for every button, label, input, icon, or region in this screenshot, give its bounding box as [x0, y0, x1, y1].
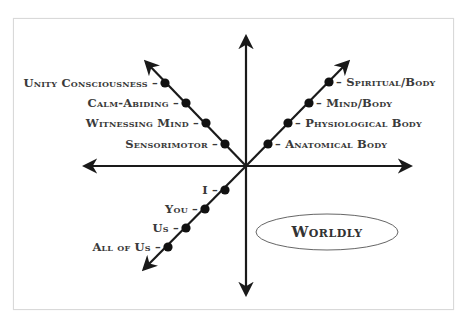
upper-left-item: Unity Consciousness –: [23, 76, 169, 90]
lower-left-item: I –: [202, 183, 229, 197]
dot-marker: [163, 242, 172, 251]
dot-marker: [200, 204, 209, 213]
dot-marker: [324, 77, 333, 86]
svg-text:– Mind/Body: – Mind/Body: [316, 96, 392, 110]
worldly-quadrant-label: Worldly: [256, 214, 398, 250]
svg-text:Calm-Abiding –: Calm-Abiding –: [88, 96, 179, 110]
dash: –: [316, 96, 322, 110]
label-physiological-body: Physiological Body: [305, 116, 422, 130]
label-witnessing-mind: Witnessing Mind: [85, 116, 189, 130]
dash: –: [212, 137, 218, 151]
upper-right-item: – Mind/Body: [304, 96, 392, 110]
svg-text:You –: You –: [164, 202, 198, 216]
lower-left-item: You –: [164, 202, 210, 216]
upper-right-item: – Anatomical Body: [263, 137, 387, 151]
dot-marker: [201, 118, 210, 127]
label-spiritual-body: Spiritual/Body: [346, 75, 435, 89]
svg-text:– Anatomical Body: – Anatomical Body: [275, 137, 387, 151]
dot-marker: [220, 139, 229, 148]
label-all-of-us: All of Us: [91, 240, 150, 254]
lower-left-item: All of Us –: [91, 240, 172, 254]
svg-text:Sensorimotor –: Sensorimotor –: [125, 137, 218, 151]
dash: –: [275, 137, 281, 151]
label-us: Us: [153, 221, 169, 235]
dot-marker: [181, 223, 190, 232]
dash: –: [193, 116, 199, 130]
worldly-text: Worldly: [290, 223, 362, 241]
svg-text:– Physiological Body: – Physiological Body: [295, 116, 422, 130]
quadrant-diagram: Unity Consciousness – Calm-Abiding – Wit…: [0, 0, 469, 325]
svg-text:I –: I –: [202, 183, 218, 197]
lower-left-item: Us –: [153, 221, 191, 235]
svg-text:Us –: Us –: [153, 221, 179, 235]
dot-marker: [220, 185, 229, 194]
label-calm-abiding: Calm-Abiding: [88, 96, 169, 110]
dash: –: [155, 240, 161, 254]
upper-left-item: Sensorimotor –: [125, 137, 229, 151]
dot-marker: [283, 118, 292, 127]
dash: –: [212, 183, 218, 197]
upper-right-item: – Spiritual/Body: [324, 75, 435, 89]
dash: –: [173, 96, 179, 110]
svg-text:– Spiritual/Body: – Spiritual/Body: [336, 75, 436, 89]
upper-right-item: – Physiological Body: [283, 116, 422, 130]
upper-left-item: Calm-Abiding –: [88, 96, 191, 110]
label-unity-consciousness: Unity Consciousness: [23, 76, 147, 90]
label-you: You: [164, 202, 188, 216]
dot-marker: [304, 98, 313, 107]
dot-marker: [181, 98, 190, 107]
label-i: I: [202, 183, 208, 197]
dash: –: [173, 221, 179, 235]
dot-marker: [160, 78, 169, 87]
label-sensorimotor: Sensorimotor: [125, 137, 208, 151]
svg-text:Witnessing Mind –: Witnessing Mind –: [85, 116, 199, 130]
label-mind-body: Mind/Body: [326, 96, 392, 110]
dash: –: [295, 116, 301, 130]
dash: –: [192, 202, 198, 216]
label-anatomical-body: Anatomical Body: [284, 137, 387, 151]
dash: –: [336, 75, 342, 89]
dash: –: [152, 76, 158, 90]
upper-left-item: Witnessing Mind –: [85, 116, 211, 130]
dot-marker: [263, 139, 272, 148]
svg-text:All of Us –: All of Us –: [91, 240, 161, 254]
svg-text:Unity Consciousness –: Unity Consciousness –: [23, 76, 158, 90]
